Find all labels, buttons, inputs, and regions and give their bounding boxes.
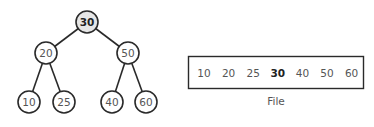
file-array: 10202530405060 File [189, 57, 364, 108]
node-label: 20 [39, 47, 52, 59]
node-label: 40 [105, 96, 118, 108]
node-label: 10 [22, 96, 35, 108]
file-item: 30 [270, 67, 285, 79]
diagram-canvas: 30205010254060 10202530405060 File [0, 0, 374, 127]
tree-node-60: 60 [135, 91, 157, 113]
file-item: 20 [222, 67, 235, 79]
tree-node-50: 50 [117, 42, 139, 64]
tree-node-20: 20 [35, 42, 57, 64]
node-label: 60 [139, 96, 152, 108]
file-caption: File [267, 95, 285, 107]
tree-node-30: 30 [76, 11, 98, 33]
node-label: 25 [57, 96, 70, 108]
tree-node-10: 10 [18, 91, 40, 113]
file-item: 10 [197, 67, 210, 79]
tree-node-40: 40 [101, 91, 123, 113]
node-label: 50 [121, 47, 134, 59]
node-label: 30 [80, 16, 95, 28]
tree-nodes: 30205010254060 [18, 11, 157, 113]
file-item: 40 [296, 67, 309, 79]
file-item: 25 [247, 67, 260, 79]
file-item: 50 [320, 67, 333, 79]
tree-node-25: 25 [53, 91, 75, 113]
file-item: 60 [345, 67, 358, 79]
